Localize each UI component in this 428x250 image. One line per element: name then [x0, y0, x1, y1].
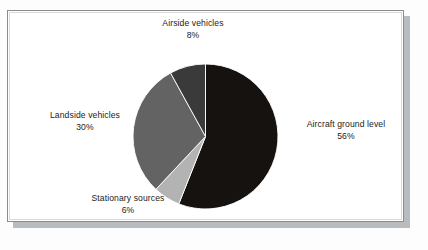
- pie-label-aircraft-ground-level: Aircraft ground level 56%: [284, 119, 408, 142]
- pie-label-airside-vehicles-name: Airside vehicles: [132, 18, 254, 30]
- pie-label-landside-vehicles: Landside vehicles 30%: [26, 110, 144, 133]
- pie-label-airside-vehicles: Airside vehicles 8%: [132, 18, 254, 41]
- pie-label-landside-vehicles-name: Landside vehicles: [26, 110, 144, 122]
- pie-label-stationary-sources-value: 6%: [60, 205, 196, 217]
- pie-label-aircraft-ground-level-name: Aircraft ground level: [284, 119, 408, 131]
- pie-label-stationary-sources: Stationary sources 6%: [60, 193, 196, 216]
- pie-label-airside-vehicles-value: 8%: [132, 30, 254, 42]
- pie-label-landside-vehicles-value: 30%: [26, 122, 144, 134]
- pie-label-aircraft-ground-level-value: 56%: [284, 131, 408, 143]
- pie-label-stationary-sources-name: Stationary sources: [60, 193, 196, 205]
- figure-root: Airside vehicles 8% Aircraft ground leve…: [0, 0, 428, 250]
